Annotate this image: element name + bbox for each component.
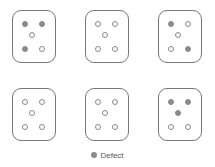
defect-dot-icon <box>175 110 181 116</box>
sample-card-4 <box>12 88 56 141</box>
ok-dot-icon <box>22 99 28 105</box>
ok-dot-icon <box>102 32 108 38</box>
ok-dot-icon <box>185 124 191 130</box>
defect-dot-icon <box>185 99 191 105</box>
defect-dot-icon <box>22 21 28 27</box>
ok-dot-icon <box>112 99 118 105</box>
ok-dot-icon <box>112 21 118 27</box>
ok-dot-icon <box>168 124 174 130</box>
defect-dot-icon <box>185 46 191 52</box>
ok-dot-icon <box>39 99 45 105</box>
ok-dot-icon <box>39 124 45 130</box>
defect-legend-icon <box>91 152 97 158</box>
ok-dot-icon <box>95 46 101 52</box>
ok-dot-icon <box>39 46 45 52</box>
ok-dot-icon <box>168 46 174 52</box>
ok-dot-icon <box>185 21 191 27</box>
defect-dot-icon <box>168 99 174 105</box>
defect-dot-icon <box>39 21 45 27</box>
defect-dot-icon <box>168 21 174 27</box>
ok-dot-icon <box>112 46 118 52</box>
ok-dot-icon <box>175 32 181 38</box>
sample-card-3 <box>158 10 202 63</box>
defect-dot-icon <box>22 46 28 52</box>
sample-card-2 <box>85 10 129 63</box>
ok-dot-icon <box>29 110 35 116</box>
ok-dot-icon <box>102 110 108 116</box>
ok-dot-icon <box>112 124 118 130</box>
sample-card-1 <box>12 10 56 63</box>
legend: Defect <box>0 151 215 160</box>
sample-card-5 <box>85 88 129 141</box>
ok-dot-icon <box>22 124 28 130</box>
ok-dot-icon <box>29 32 35 38</box>
legend-label: Defect <box>100 151 123 160</box>
sample-card-6 <box>158 88 202 141</box>
ok-dot-icon <box>95 99 101 105</box>
ok-dot-icon <box>95 124 101 130</box>
ok-dot-icon <box>95 21 101 27</box>
